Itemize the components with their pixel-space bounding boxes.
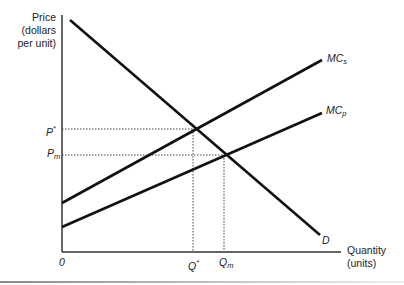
mc-private-sub: p xyxy=(342,109,346,118)
demand-label: D xyxy=(322,234,330,247)
q-m-sub: m xyxy=(227,261,233,270)
chart-canvas xyxy=(0,0,404,285)
mc-social-label: MCs xyxy=(327,52,347,68)
q-m-main: Q xyxy=(219,256,227,268)
mc-private-label: MCp xyxy=(326,104,347,120)
demand-curve xyxy=(70,20,320,235)
p-m-label: Pm xyxy=(47,147,60,163)
mc-private-main: MC xyxy=(326,104,342,116)
q-star-main: Q xyxy=(188,260,196,272)
q-star-sup: * xyxy=(196,259,199,266)
bottom-rule xyxy=(0,281,404,283)
x-axis-title: Quantity (units) xyxy=(347,244,386,270)
y-axis-title-line1: Price xyxy=(8,11,56,24)
mc-social-sub: s xyxy=(343,57,347,66)
p-m-sub: m xyxy=(54,152,60,161)
q-star-label: Q* xyxy=(188,256,199,273)
origin-label: 0 xyxy=(59,256,65,269)
x-axis-title-line2: (units) xyxy=(347,257,386,270)
x-axis-title-line1: Quantity xyxy=(347,244,386,257)
y-axis-title-line2: (dollars xyxy=(8,24,56,37)
mc-social-main: MC xyxy=(327,52,343,64)
p-star-label: P* xyxy=(46,122,56,139)
y-axis-title-line3: per unit) xyxy=(8,37,56,50)
y-axis-title: Price (dollars per unit) xyxy=(8,11,56,50)
p-star-sup: * xyxy=(53,125,56,132)
p-star-main: P xyxy=(46,126,53,138)
q-m-label: Qm xyxy=(219,256,233,272)
p-m-main: P xyxy=(47,147,54,159)
